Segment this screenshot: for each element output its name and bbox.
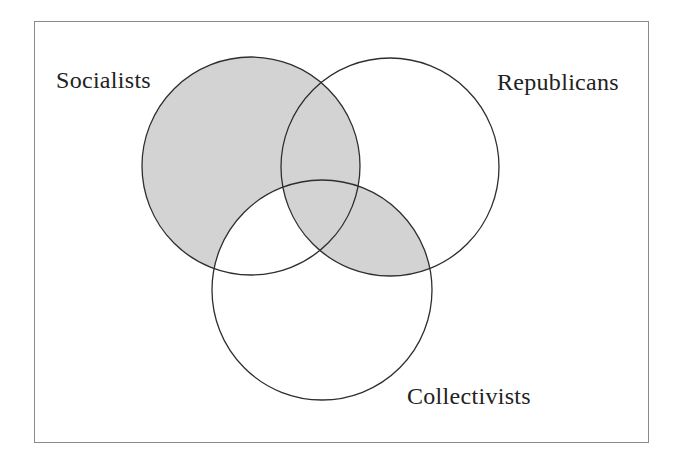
label-collectivists: Collectivists <box>407 384 531 408</box>
label-socialists: Socialists <box>56 68 151 92</box>
label-republicans: Republicans <box>497 70 619 94</box>
